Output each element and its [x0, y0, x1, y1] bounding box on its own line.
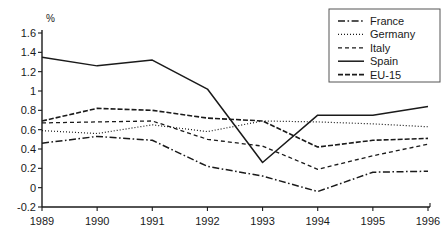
chart-canvas: 1.61.41.210.80.60.40.20-0.2 198919901991… — [0, 0, 443, 241]
y-tick-label: 0.8 — [21, 104, 36, 116]
series-line-italy — [42, 121, 428, 169]
x-tick-label: 1996 — [416, 215, 440, 227]
x-tick-label: 1990 — [85, 215, 109, 227]
legend-label-france: France — [370, 15, 404, 27]
legend-label-eu-15: EU-15 — [370, 69, 401, 81]
x-tick-label: 1989 — [30, 215, 54, 227]
y-tick-label: 0.4 — [21, 143, 36, 155]
line-chart: 1.61.41.210.80.60.40.20-0.2 198919901991… — [0, 0, 443, 241]
y-axis-unit-label: % — [46, 13, 55, 24]
legend-label-spain: Spain — [370, 55, 398, 67]
x-tick-label: 1991 — [140, 215, 164, 227]
series-line-eu-15 — [42, 108, 428, 147]
legend-label-italy: Italy — [370, 42, 391, 54]
y-tick-label: -0.2 — [17, 201, 36, 213]
legend-label-germany: Germany — [370, 28, 416, 40]
x-tick-label: 1992 — [195, 215, 219, 227]
y-tick-label: 1.6 — [21, 27, 36, 39]
x-axis-tick-labels: 19891990199119921993199419951996 — [30, 215, 440, 227]
y-tick-label: 1.2 — [21, 66, 36, 78]
y-tick-label: 0.6 — [21, 124, 36, 136]
y-tick-label: 0 — [30, 182, 36, 194]
y-tick-label: 0.2 — [21, 162, 36, 174]
y-tick-label: 1 — [30, 85, 36, 97]
x-tick-label: 1995 — [361, 215, 385, 227]
x-tick-label: 1993 — [250, 215, 274, 227]
x-tick-label: 1994 — [305, 215, 329, 227]
y-tick-label: 1.4 — [21, 46, 36, 58]
series-line-france — [42, 136, 428, 191]
chart-legend: FranceGermanyItalySpainEU-15 — [329, 9, 440, 82]
series-line-germany — [42, 121, 428, 134]
y-axis-tick-labels: 1.61.41.210.80.60.40.20-0.2 — [17, 27, 36, 213]
